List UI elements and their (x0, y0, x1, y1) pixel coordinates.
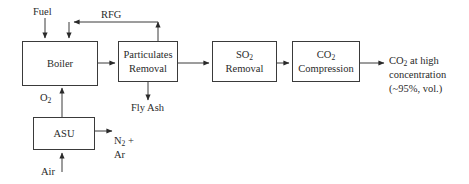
box-boiler[interactable]: Boiler (22, 41, 98, 86)
box-particulates-removal-label: ParticulatesRemoval (124, 48, 173, 74)
label-n2-ar: N2 +Ar (114, 134, 134, 162)
box-co2-compression-label: CO2Compression (298, 48, 353, 75)
box-co2-compression[interactable]: CO2Compression (292, 41, 360, 82)
box-boiler-label: Boiler (47, 57, 73, 70)
label-co2-product: CO2 at highconcentration(~95%, vol.) (389, 54, 446, 96)
box-asu[interactable]: ASU (33, 117, 95, 150)
box-particulates-removal[interactable]: ParticulatesRemoval (118, 41, 178, 82)
process-flow-diagram: Boiler ParticulatesRemoval SO2Removal CO… (0, 0, 469, 184)
box-so2-removal[interactable]: SO2Removal (212, 41, 277, 82)
label-air: Air (41, 165, 55, 179)
label-rfg: RFG (101, 8, 121, 22)
label-o2: O2 (40, 91, 51, 105)
label-fly-ash: Fly Ash (131, 101, 164, 115)
box-so2-removal-label: SO2Removal (226, 48, 264, 75)
label-fuel: Fuel (33, 5, 52, 19)
box-asu-label: ASU (53, 127, 74, 140)
